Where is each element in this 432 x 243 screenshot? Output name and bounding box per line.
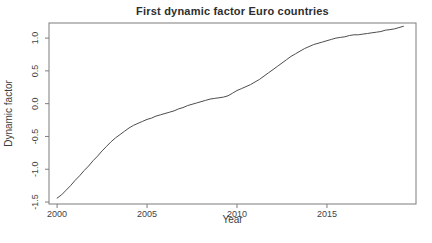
y-tick-label: -1.0: [30, 161, 40, 177]
series-line-first-dynamic-factor: [57, 26, 403, 198]
y-tick-label: 1.0: [30, 32, 40, 45]
chart-figure: First dynamic factor Euro countries 2000…: [0, 0, 432, 243]
y-tick-label: 0.0: [30, 97, 40, 110]
y-tick-label: -0.5: [30, 129, 40, 145]
y-tick-label: -1.5: [30, 194, 40, 210]
x-axis-label: Year: [49, 214, 416, 225]
plot-area: 2000200520102015-1.5-1.0-0.50.00.51.0: [0, 0, 432, 243]
y-axis-label: Dynamic factor: [3, 59, 14, 169]
y-tick-label: 0.5: [30, 65, 40, 78]
plot-box: [49, 23, 416, 204]
